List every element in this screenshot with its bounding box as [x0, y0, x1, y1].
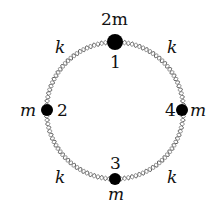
mass-2-mass-label: m — [20, 100, 36, 120]
mass-1-mass-label: 2m — [101, 9, 128, 29]
spring-top-right-label: k — [167, 37, 177, 57]
mass-4 — [176, 104, 188, 116]
mass-4-index-label: 4 — [165, 100, 176, 120]
mass-1-index-label: 1 — [110, 52, 121, 72]
mass-3-mass-label: m — [108, 184, 124, 204]
ring-spring-diagram: 2m 1 m 2 3 m 4 m k k k k — [0, 0, 216, 212]
mass-2 — [41, 104, 53, 116]
mass-3-index-label: 3 — [110, 153, 121, 173]
mass-4-mass-label: m — [190, 100, 206, 120]
mass-1 — [107, 34, 123, 50]
spring-top-left-label: k — [55, 37, 65, 57]
mass-2-index-label: 2 — [57, 100, 68, 120]
spring-bottom-left-label: k — [55, 167, 65, 187]
spring-bottom-right-label: k — [167, 167, 177, 187]
